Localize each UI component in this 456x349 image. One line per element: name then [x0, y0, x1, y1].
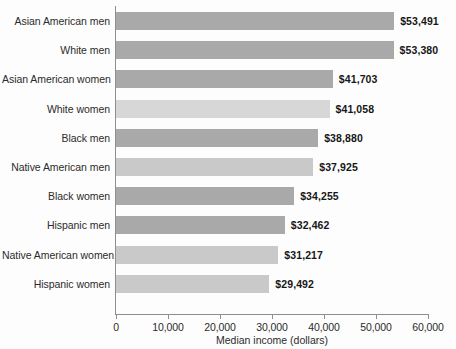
bar-row: $38,880 — [116, 129, 428, 147]
bar — [116, 41, 394, 59]
bar-value-label: $29,492 — [275, 278, 314, 290]
tick-mark — [428, 314, 429, 319]
bar-row: $41,703 — [116, 70, 428, 88]
bar-chart: Asian American menWhite menAsian America… — [0, 0, 456, 349]
category-label: Black women — [2, 190, 110, 202]
tick-mark — [376, 314, 377, 319]
bar — [116, 129, 318, 147]
category-label: Asian American men — [2, 15, 110, 27]
category-label: Black men — [2, 132, 110, 144]
tick-mark — [272, 314, 273, 319]
category-label: Hispanic men — [2, 219, 110, 231]
bar — [116, 246, 278, 264]
x-axis-title: Median income (dollars) — [116, 334, 428, 346]
bar-value-label: $53,380 — [400, 44, 439, 56]
category-label: Native American men — [2, 161, 110, 173]
bar-value-label: $41,703 — [339, 73, 378, 85]
bar-value-label: $38,880 — [324, 132, 363, 144]
bar — [116, 187, 294, 205]
bar-value-label: $31,217 — [284, 249, 323, 261]
tick-label: 60,000 — [412, 321, 444, 333]
bar-row: $34,255 — [116, 187, 428, 205]
bar-row: $41,058 — [116, 100, 428, 118]
tick-label: 10,000 — [152, 321, 184, 333]
category-label: Hispanic women — [2, 278, 110, 290]
bar — [116, 100, 330, 118]
tick-label: 20,000 — [204, 321, 236, 333]
bar — [116, 12, 394, 30]
bar-row: $53,491 — [116, 12, 428, 30]
bar — [116, 275, 269, 293]
bar-value-label: $53,491 — [400, 15, 439, 27]
bar-value-label: $32,462 — [291, 219, 330, 231]
category-label: Asian American women — [2, 73, 110, 85]
bar-row: $32,462 — [116, 216, 428, 234]
category-axis-labels: Asian American menWhite menAsian America… — [0, 6, 110, 314]
tick-label: 30,000 — [256, 321, 288, 333]
plot-area: $53,491$53,380$41,703$41,058$38,880$37,9… — [116, 6, 428, 314]
bar-value-label: $34,255 — [300, 190, 339, 202]
bar-value-label: $37,925 — [319, 161, 358, 173]
tick-label: 40,000 — [308, 321, 340, 333]
bar — [116, 158, 313, 176]
tick-mark — [168, 314, 169, 319]
category-label: Native American women — [2, 249, 110, 261]
category-label: White men — [2, 44, 110, 56]
bar-row: $31,217 — [116, 246, 428, 264]
tick-label: 0 — [113, 321, 119, 333]
bar-row: $53,380 — [116, 41, 428, 59]
category-label: White women — [2, 103, 110, 115]
bar-value-label: $41,058 — [336, 103, 375, 115]
bar-row: $37,925 — [116, 158, 428, 176]
bar — [116, 216, 285, 234]
tick-mark — [116, 314, 117, 319]
tick-mark — [220, 314, 221, 319]
bar-row: $29,492 — [116, 275, 428, 293]
bar — [116, 70, 333, 88]
tick-mark — [324, 314, 325, 319]
tick-label: 50,000 — [360, 321, 392, 333]
